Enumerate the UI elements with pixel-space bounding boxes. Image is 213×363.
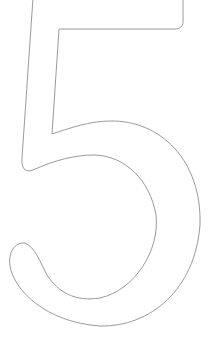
digit-five-outline-icon (0, 0, 213, 363)
digit-five-canvas: 5 (0, 0, 213, 363)
